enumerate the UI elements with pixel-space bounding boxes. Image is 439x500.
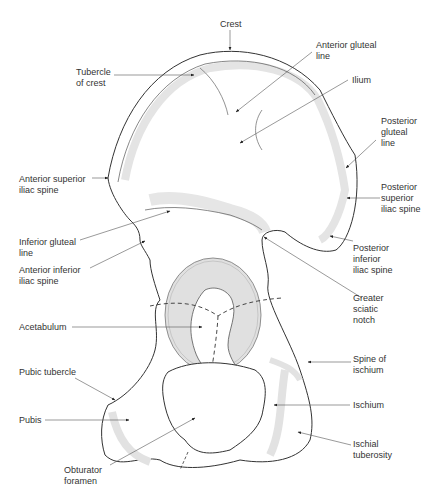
- label-anterior-superior-iliac-spine: Anterior superior iliac spine: [19, 174, 86, 196]
- label-inferior-gluteal-line: Inferior gluteal line: [19, 237, 76, 259]
- label-spine-of-ischium: Spine of ischium: [353, 354, 386, 376]
- label-posterior-gluteal-line: Posterior gluteal line: [381, 116, 417, 149]
- label-obturator-foramen: Obturator foramen: [64, 465, 102, 487]
- label-ischium: Ischium: [353, 400, 384, 411]
- label-ilium: Ilium: [352, 75, 371, 86]
- label-greater-sciatic-notch: Greater sciatic notch: [353, 293, 384, 326]
- label-acetabulum: Acetabulum: [19, 322, 67, 333]
- label-posterior-inferior-iliac-spine: Posterior inferior iliac spine: [353, 243, 393, 276]
- label-pubis: Pubis: [19, 415, 42, 426]
- label-tubercle-of-crest: Tubercle of crest: [76, 67, 111, 89]
- label-ischial-tuberosity: Ischial tuberosity: [353, 439, 392, 461]
- label-crest: Crest: [220, 19, 242, 30]
- label-anterior-gluteal-line: Anterior gluteal line: [316, 40, 377, 62]
- label-pubic-tubercle: Pubic tubercle: [19, 367, 76, 378]
- label-anterior-inferior-iliac-spine: Anterior inferior iliac spine: [19, 265, 81, 287]
- label-posterior-superior-iliac-spine: Posterior superior iliac spine: [381, 182, 421, 215]
